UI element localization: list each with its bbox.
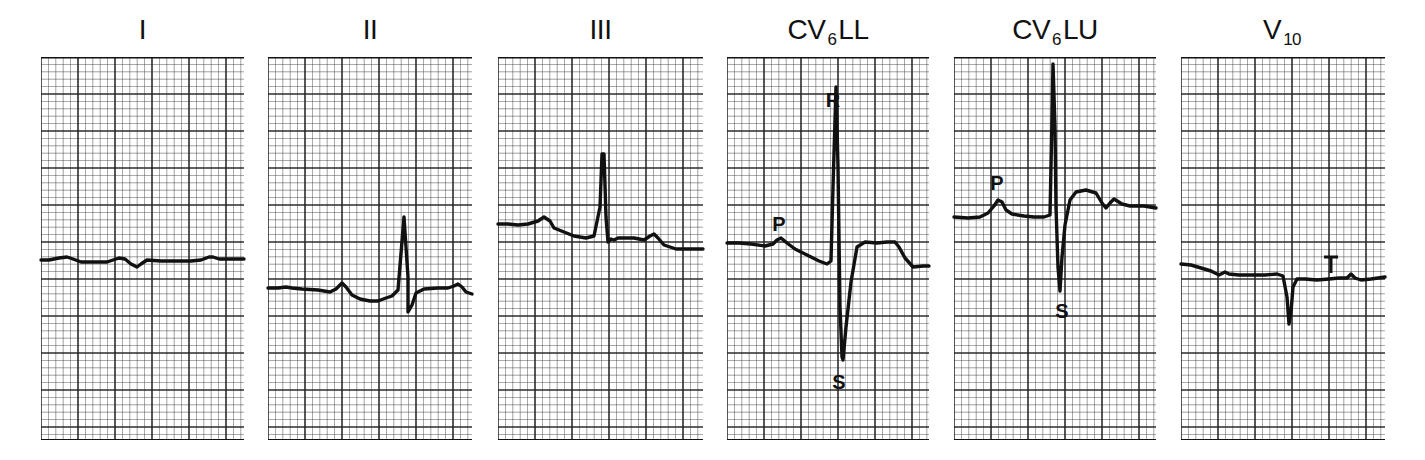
ecg-waveform: [1181, 264, 1385, 324]
wave-label-s: S: [832, 371, 845, 393]
lead-title: CV6LU: [954, 14, 1156, 50]
wave-label-p: P: [990, 172, 1003, 194]
ecg-trace: [41, 57, 244, 440]
wave-label-s: S: [1055, 300, 1068, 322]
ecg-trace: [498, 57, 703, 440]
ecg-waveform: [268, 217, 472, 312]
wave-label-t: [1324, 257, 1338, 273]
lead-title-subscript: 10: [1283, 30, 1301, 49]
lead-title: III: [498, 14, 703, 46]
ecg-lead-panel-cv6lu: CV6LU PS: [954, 0, 1156, 460]
ecg-waveform: [41, 257, 244, 267]
lead-title-main: CV: [787, 14, 825, 45]
ecg-lead-panel-v10: V10: [1181, 0, 1385, 460]
ecg-waveform: [498, 154, 703, 249]
ecg-waveform: [954, 64, 1156, 291]
lead-title-main: III: [590, 14, 612, 45]
ecg-waveform: [727, 87, 929, 360]
lead-title-main: V: [1263, 14, 1281, 45]
wave-label-r: R: [826, 89, 841, 111]
lead-title-subscript: 6: [1052, 30, 1061, 49]
lead-title-suffix: LU: [1063, 14, 1098, 45]
ecg-lead-panel-iii: III: [498, 0, 703, 460]
lead-title-main: CV: [1012, 14, 1050, 45]
lead-title-main: II: [363, 14, 378, 45]
lead-title-suffix: LL: [838, 14, 868, 45]
lead-title: CV6LL: [727, 14, 929, 50]
ecg-lead-panel-ii: II: [268, 0, 472, 460]
lead-title: I: [41, 14, 244, 46]
ecg-trace: PS: [954, 57, 1156, 440]
ecg-lead-panel-i: I: [41, 0, 244, 460]
ecg-trace: [1181, 57, 1385, 440]
wave-label-p: P: [772, 213, 785, 235]
ecg-trace: PRS: [727, 57, 929, 440]
lead-title: II: [268, 14, 472, 46]
lead-title: V10: [1181, 14, 1385, 50]
ecg-trace: [268, 57, 472, 440]
ecg-lead-panel-cv6ll: CV6LL PRS: [727, 0, 929, 460]
lead-title-subscript: 6: [827, 30, 836, 49]
lead-title-main: I: [139, 14, 146, 45]
